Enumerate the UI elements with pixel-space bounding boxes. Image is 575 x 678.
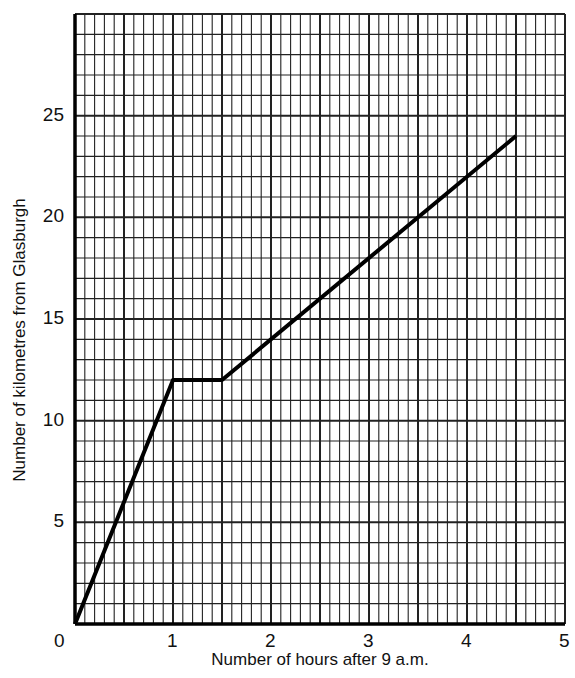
y-tick-label: 5 (53, 510, 64, 532)
x-tick-label: 3 (363, 630, 374, 652)
y-tick-label: 25 (43, 104, 64, 126)
y-tick-label: 15 (43, 307, 64, 329)
line-chart (0, 0, 575, 678)
grid-lines (75, 14, 565, 624)
x-tick-label: 1 (167, 630, 178, 652)
y-tick-label: 10 (43, 409, 64, 431)
x-tick-label: 4 (461, 630, 472, 652)
x-tick-label: 2 (265, 630, 276, 652)
x-tick-label: 5 (559, 630, 570, 652)
x-tick-label: 0 (54, 630, 65, 652)
y-axis-label: Number of kilometres from Glasburgh (10, 150, 30, 530)
y-tick-label: 20 (43, 205, 64, 227)
x-axis-label: Number of hours after 9 a.m. (75, 650, 565, 670)
